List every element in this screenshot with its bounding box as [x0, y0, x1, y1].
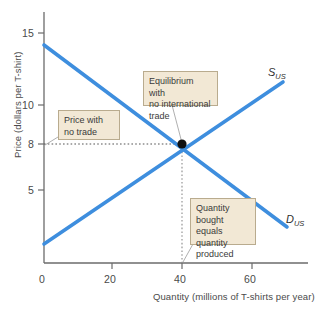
x-tick-label-20: 20	[104, 273, 116, 285]
y-axis-title: Price (dollars per T-shirt)	[12, 51, 23, 158]
supply-demand-chart: 15 10 8 5 0 20 40 60 Price (dollars per …	[0, 0, 319, 315]
demand-curve-label: DUS	[286, 213, 304, 228]
x-tick-label-40: 40	[174, 273, 186, 285]
x-tick-label-0: 0	[39, 273, 45, 285]
equilibrium-point	[177, 139, 186, 148]
equilibrium-callout: Equilibrium with no international trade	[143, 71, 218, 106]
supply-curve-label: SUS	[268, 66, 286, 81]
quantity-callout-leader	[183, 244, 193, 262]
supply-curve-label-sub: US	[275, 72, 285, 81]
x-tick-label-60: 60	[244, 273, 256, 285]
demand-curve-label-sub: US	[294, 219, 304, 228]
quantity-callout: Quantity bought equals quantity produced	[190, 198, 256, 245]
price-no-trade-callout: Price with no trade	[58, 110, 120, 140]
y-tick-label-5: 5	[4, 184, 34, 196]
y-tick-label-15: 15	[4, 27, 34, 39]
chart-canvas	[0, 0, 319, 315]
x-axis-title: Quantity (millions of T-shirts per year)	[153, 291, 315, 302]
equilibrium-callout-leader	[172, 105, 182, 143]
demand-curve-label-text: D	[286, 213, 294, 225]
